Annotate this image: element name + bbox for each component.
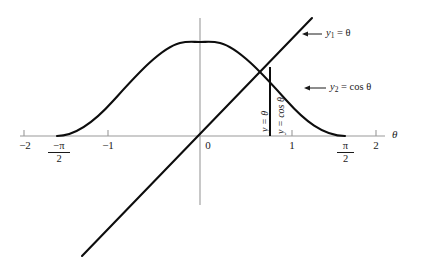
- cosine-curve: [57, 42, 345, 136]
- frac-denominator: 2: [337, 153, 354, 164]
- vertical-label-y-equals-theta: y = θ: [259, 111, 270, 132]
- callout-line-rest: = θ: [337, 27, 351, 38]
- graph-figure: −2 −π 2 −1 0 1 π 2 2 θ y1 = θ y2 = cos θ…: [0, 0, 424, 275]
- tick-label-zero: 0: [203, 140, 213, 151]
- tick-label-neg1: −1: [101, 140, 115, 151]
- frac-denominator: 2: [48, 153, 70, 164]
- plot-canvas: [0, 0, 424, 275]
- cos-callout-arrow: [304, 85, 326, 90]
- callout-line-subscript: 1: [331, 31, 335, 40]
- line-callout-arrow: [302, 31, 322, 36]
- tick-label-two: 2: [371, 140, 381, 151]
- frac-numerator: −π: [48, 140, 70, 151]
- callout-cos-subscript: 2: [335, 85, 339, 94]
- tick-label-neg-pi-over-2: −π 2: [48, 140, 70, 164]
- tick-label-neg2: −2: [18, 140, 32, 151]
- tick-label-pi-over-2: π 2: [337, 140, 354, 164]
- callout-label-line: y1 = θ: [326, 28, 351, 39]
- identity-line: [82, 18, 312, 256]
- callout-label-cosine: y2 = cos θ: [330, 82, 371, 93]
- frac-numerator: π: [337, 140, 354, 151]
- callout-cos-rest: = cos θ: [341, 81, 371, 92]
- vertical-label-y-equals-cos-theta: y = cos θ: [275, 97, 286, 134]
- tick-label-one: 1: [287, 140, 297, 151]
- x-axis-label-theta: θ: [392, 129, 397, 140]
